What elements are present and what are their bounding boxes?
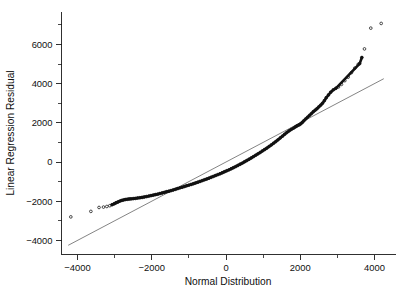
y-tick-label: 6000 xyxy=(32,39,53,50)
data-point xyxy=(90,210,93,213)
qq-plot-figure: −4000−2000020004000−4000−200002000400060… xyxy=(0,0,399,294)
y-tick-label: 0 xyxy=(47,156,52,167)
x-tick-label: −4000 xyxy=(64,262,90,273)
data-point xyxy=(102,206,105,209)
x-tick-label: 0 xyxy=(223,262,228,273)
x-tick-label: 4000 xyxy=(364,262,385,273)
data-point xyxy=(360,56,363,59)
x-axis-title: Normal Distribution xyxy=(185,276,272,287)
data-point xyxy=(69,216,72,219)
y-tick-label: −4000 xyxy=(26,235,52,246)
y-tick-label: 2000 xyxy=(32,117,53,128)
plot-canvas: −4000−2000020004000−4000−200002000400060… xyxy=(0,0,399,294)
y-tick-label: −2000 xyxy=(26,196,52,207)
tick-labels: −4000−2000020004000−4000−200002000400060… xyxy=(26,39,385,273)
data-point xyxy=(323,99,326,102)
y-tick-label: 4000 xyxy=(32,78,53,89)
data-points xyxy=(69,22,382,218)
qq-reference-line xyxy=(68,79,384,246)
data-point xyxy=(380,22,383,25)
data-point xyxy=(325,96,328,99)
data-point xyxy=(363,48,366,51)
data-point xyxy=(327,94,330,97)
x-tick-label: −2000 xyxy=(139,262,165,273)
axis-lines xyxy=(62,12,396,255)
data-point xyxy=(321,102,324,105)
data-point xyxy=(98,206,101,209)
y-axis-title: Linear Regression Residual xyxy=(5,70,16,195)
x-tick-label: 2000 xyxy=(290,262,311,273)
tick-marks xyxy=(56,25,375,260)
dense-data-band xyxy=(112,58,362,205)
data-point xyxy=(105,205,108,208)
data-point xyxy=(329,91,332,94)
data-point xyxy=(369,27,372,30)
reference-line xyxy=(68,79,384,246)
data-point xyxy=(358,62,361,65)
